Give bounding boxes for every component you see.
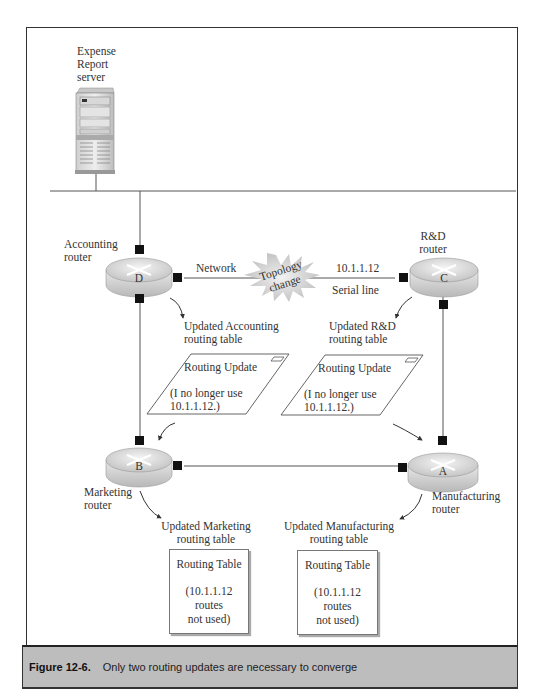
- svg-text:routing table: routing table: [329, 333, 387, 346]
- router-accounting-icon[interactable]: D: [106, 258, 172, 297]
- accounting-router-label: Accounting router: [64, 238, 118, 263]
- svg-text:Updated Accounting: Updated Accounting: [184, 320, 279, 333]
- port-icon: [135, 245, 144, 254]
- svg-text:(I no longer use: (I no longer use: [304, 388, 377, 401]
- figure-caption-text: Only two routing updates are necessary t…: [103, 661, 357, 673]
- updated-accounting-table-label: Updated Accounting routing table: [184, 320, 279, 346]
- network-label: Network: [196, 262, 236, 274]
- svg-text:router: router: [84, 499, 112, 511]
- svg-text:routing table: routing table: [310, 533, 368, 546]
- port-icon: [135, 436, 144, 445]
- svg-text:C: C: [440, 272, 448, 284]
- updated-rnd-table-label: Updated R&D routing table: [329, 320, 396, 346]
- router-rnd-icon[interactable]: C: [410, 258, 478, 297]
- arrow-icon: [140, 491, 161, 518]
- svg-text:Report: Report: [77, 58, 109, 71]
- svg-text:routing table: routing table: [184, 333, 242, 346]
- svg-text:A: A: [439, 465, 448, 477]
- svg-text:Marketing: Marketing: [84, 486, 132, 499]
- arrow-icon: [400, 494, 422, 519]
- port-icon: [438, 436, 447, 445]
- svg-text:10.1.1.12.): 10.1.1.12.): [304, 401, 354, 414]
- svg-text:server: server: [77, 71, 105, 83]
- svg-text:Manufacturing: Manufacturing: [432, 490, 501, 503]
- svg-text:routing table: routing table: [177, 533, 235, 546]
- port-icon: [173, 461, 182, 470]
- routing-update-envelope-2: Routing Update (I no longer use 10.1.1.1…: [281, 355, 423, 415]
- svg-text:Accounting: Accounting: [64, 238, 118, 251]
- ip-address-label: 10.1.1.12: [336, 262, 379, 274]
- figure-number: Figure 12-6.: [29, 661, 91, 673]
- svg-text:R&D: R&D: [421, 230, 446, 242]
- port-icon: [439, 300, 448, 309]
- serial-line-label: Serial line: [332, 284, 379, 296]
- port-icon: [173, 273, 182, 282]
- svg-text:Updated Manufacturing: Updated Manufacturing: [284, 520, 394, 533]
- server-icon[interactable]: [75, 88, 115, 174]
- topology-change-burst-icon: Topology change: [244, 253, 320, 302]
- svg-text:Routing Update: Routing Update: [318, 362, 391, 375]
- arrow-icon: [170, 298, 183, 318]
- svg-text:router: router: [64, 251, 92, 263]
- svg-text:router: router: [419, 243, 447, 255]
- svg-text:10.1.1.12.): 10.1.1.12.): [170, 400, 220, 413]
- svg-text:router: router: [432, 503, 460, 515]
- svg-text:B: B: [135, 460, 143, 472]
- marketing-router-label: Marketing router: [84, 486, 132, 511]
- arrow-icon: [159, 423, 175, 440]
- figure-caption: Figure 12-6. Only two routing updates ar…: [22, 645, 518, 689]
- routing-table-manufacturing: Routing Table (10.1.1.12 routes not used…: [297, 550, 378, 635]
- routing-table-marketing: Routing Table (10.1.1.12 routes not used…: [169, 549, 249, 634]
- arrow-icon: [393, 424, 422, 440]
- updated-marketing-table-label: Updated Marketing routing table: [161, 520, 251, 546]
- manufacturing-router-label: Manufacturing router: [432, 490, 501, 515]
- router-manufacturing-icon[interactable]: A: [408, 453, 478, 492]
- svg-text:Routing Update: Routing Update: [184, 361, 257, 374]
- updated-manufacturing-table-label: Updated Manufacturing routing table: [284, 520, 394, 546]
- svg-text:(I no longer use: (I no longer use: [170, 387, 243, 400]
- svg-text:Updated Marketing: Updated Marketing: [161, 520, 251, 533]
- network-diagram: Expense Report server Topology ch: [0, 0, 546, 700]
- port-icon: [398, 463, 407, 472]
- svg-text:D: D: [135, 272, 143, 284]
- routing-update-envelope-1: Routing Update (I no longer use 10.1.1.1…: [147, 354, 289, 414]
- router-marketing-icon[interactable]: B: [106, 448, 172, 487]
- server-label: Expense Report server: [77, 45, 116, 83]
- arrow-icon: [396, 297, 412, 318]
- svg-text:Updated R&D: Updated R&D: [329, 320, 396, 333]
- port-icon: [135, 294, 144, 303]
- port-icon: [399, 273, 408, 282]
- rnd-router-label: R&D router: [419, 230, 447, 255]
- svg-text:Expense: Expense: [77, 45, 116, 58]
